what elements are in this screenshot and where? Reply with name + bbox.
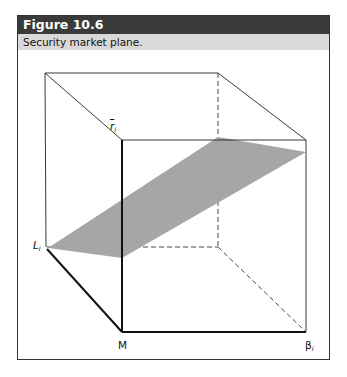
origin-label: M [118,339,127,351]
beta-axis-label: βi [305,339,314,353]
security-market-plane [48,137,306,258]
leverage-axis-label: Li [33,239,41,253]
leverage-axis [47,249,122,332]
origin-symbol: M [118,339,127,351]
beta-subscript: i [312,345,314,353]
bottom-right-depth-hidden [218,247,306,332]
return-subscript: i [114,126,116,134]
leverage-subscript: i [39,245,41,253]
top-right-depth-edge [218,73,306,140]
security-market-plane-diagram [0,0,347,377]
return-axis-label: ri [110,120,116,134]
beta-symbol: β [305,339,312,351]
back-left-edge [45,73,46,247]
